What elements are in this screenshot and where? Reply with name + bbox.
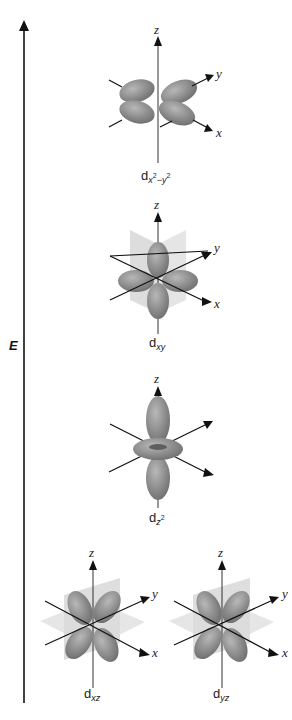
y-axis-label: y [282,586,288,602]
orbital-label-dyz: dyz [213,686,229,703]
x-axis-label: x [282,645,288,661]
orbital-dyz-graphic [0,0,292,720]
z-axis-label: z [218,545,223,561]
